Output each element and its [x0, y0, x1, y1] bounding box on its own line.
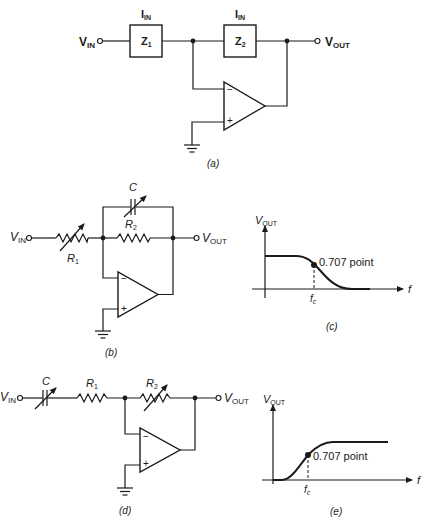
noninverting-input-sign: +: [227, 115, 233, 126]
panel-d-active-highpass-filter: VIN C R1 R2 VOUT − + (d): [0, 375, 249, 516]
ground-icon: [117, 488, 133, 495]
vin-label: VIN: [10, 230, 26, 245]
caption-a: (a): [207, 158, 219, 169]
vout-terminal: [315, 39, 320, 44]
r2-resistor: [117, 234, 150, 242]
c-label: C: [42, 375, 50, 387]
inverting-input-sign: −: [121, 273, 127, 284]
ground-icon: [184, 145, 200, 152]
vin-terminal: [98, 39, 103, 44]
point-label: 0.707 point: [319, 256, 373, 268]
r2-label: R2: [146, 377, 158, 390]
vout-terminal: [216, 396, 221, 401]
c-label: C: [129, 181, 137, 193]
x-axis-label: f: [417, 474, 421, 486]
vout-label: VOUT: [202, 231, 227, 246]
vin-terminal: [18, 396, 23, 401]
caption-b: (b): [105, 347, 117, 358]
caption-c: (c): [326, 321, 338, 332]
iin1-label: IIN: [141, 8, 151, 21]
noninverting-input-sign: +: [121, 303, 127, 314]
panel-b-active-lowpass-filter: VIN R1 R2 VOUT C − +: [10, 181, 227, 358]
vin-terminal: [27, 236, 32, 241]
y-axis-label: VOUT: [263, 393, 286, 406]
noninverting-input-sign: +: [143, 458, 149, 469]
vout-terminal: [194, 236, 199, 241]
filter-circuits-figure: VIN Z1 IIN Z2 IIN VOUT − + (a) VI: [0, 0, 431, 520]
panel-c-lowpass-response-graph: VOUT f 0.707 point fc (c): [252, 214, 412, 332]
panel-e-highpass-response-graph: VOUT f 0.707 point fc (e): [262, 393, 421, 517]
r1-resistor: [77, 394, 107, 402]
caption-e: (e): [330, 506, 342, 517]
vout-label: VOUT: [325, 35, 350, 50]
point-label: 0.707 point: [313, 450, 367, 462]
ground-icon: [95, 331, 111, 338]
caption-d: (d): [119, 505, 131, 516]
fc-label: fc: [310, 293, 317, 305]
r1-label: R1: [67, 252, 79, 265]
vin-label: VIN: [79, 35, 95, 50]
vout-label: VOUT: [224, 391, 249, 406]
r1-label: R1: [86, 377, 98, 390]
fc-label: fc: [304, 484, 311, 496]
vin-label: VIN: [0, 390, 16, 405]
r2-label: R2: [125, 218, 137, 231]
inverting-input-sign: −: [227, 84, 233, 95]
inverting-input-sign: −: [143, 431, 149, 442]
iin2-label: IIN: [235, 8, 245, 21]
y-axis-label: VOUT: [255, 214, 278, 227]
panel-a-general-inverting-amplifier: VIN Z1 IIN Z2 IIN VOUT − + (a): [79, 8, 350, 169]
x-axis-label: f: [408, 283, 412, 295]
variable-arrow-icon: [60, 224, 84, 251]
